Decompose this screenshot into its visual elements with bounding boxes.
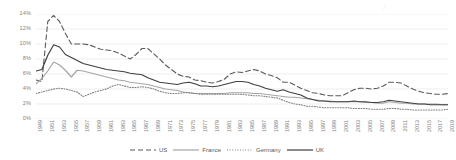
- x-tick-label: 1987: [262, 120, 267, 132]
- x-tick-label: 2003: [356, 120, 361, 132]
- x-tick-label: 1997: [321, 120, 326, 132]
- legend-item-france[interactable]: France: [173, 147, 221, 153]
- x-tick-label: 1995: [309, 120, 314, 132]
- y-tick-label: 0%: [23, 116, 31, 122]
- x-tick-label: 1949: [38, 120, 43, 132]
- y-tick-label: 14%: [20, 11, 32, 17]
- legend-swatch-germany-icon: [227, 147, 253, 153]
- x-tick-label: 1961: [109, 120, 114, 132]
- x-tick-label: 1969: [156, 120, 161, 132]
- x-tick-label: 1991: [285, 120, 290, 132]
- plot-area: [36, 14, 448, 119]
- legend-swatch-uk-icon: [287, 147, 313, 153]
- x-tick-label: 1953: [62, 120, 67, 132]
- legend-swatch-us-icon: [130, 147, 156, 153]
- watermark: ?: [382, 3, 386, 13]
- legend-label: Germany: [256, 147, 281, 153]
- series-line-germany: [36, 85, 448, 111]
- x-tick-label: 1999: [332, 120, 337, 132]
- x-tick-label: 1963: [121, 120, 126, 132]
- x-tick-label: 1951: [50, 120, 55, 132]
- chart-legend: USFranceGermanyUK: [0, 143, 454, 157]
- x-tick-label: 2009: [391, 120, 396, 132]
- x-tick-label: 2001: [344, 120, 349, 132]
- legend-item-us[interactable]: US: [130, 147, 167, 153]
- legend-swatch-france-icon: [173, 147, 199, 153]
- y-tick-label: 2%: [23, 101, 31, 107]
- series-lines: [36, 14, 448, 119]
- x-tick-label: 1979: [215, 120, 220, 132]
- x-tick-label: 1981: [227, 120, 232, 132]
- legend-item-germany[interactable]: Germany: [227, 147, 281, 153]
- x-tick-label: 2013: [415, 120, 420, 132]
- x-tick-label: 1983: [238, 120, 243, 132]
- x-tick-label: 1993: [297, 120, 302, 132]
- y-tick-label: 8%: [23, 56, 31, 62]
- series-line-us: [36, 16, 448, 96]
- x-tick-label: 2017: [438, 120, 443, 132]
- x-tick-label: 1959: [97, 120, 102, 132]
- x-tick-label: 2015: [427, 120, 432, 132]
- x-tick-label: 1975: [191, 120, 196, 132]
- x-tick-label: 1971: [168, 120, 173, 132]
- legend-label: France: [202, 147, 221, 153]
- x-tick-label: 1957: [85, 120, 90, 132]
- y-axis: 0%2%4%6%8%10%12%14%: [0, 14, 34, 119]
- x-tick-label: 1965: [132, 120, 137, 132]
- x-tick-label: 1989: [274, 120, 279, 132]
- x-tick-label: 2005: [368, 120, 373, 132]
- x-tick-label: 1967: [144, 120, 149, 132]
- y-tick-label: 10%: [20, 41, 32, 47]
- y-tick-label: 12%: [20, 26, 32, 32]
- y-tick-label: 4%: [23, 86, 31, 92]
- x-tick-label: 1985: [250, 120, 255, 132]
- series-line-france: [36, 62, 448, 105]
- x-tick-label: 2019: [450, 120, 455, 132]
- y-tick-label: 6%: [23, 71, 31, 77]
- legend-item-uk[interactable]: UK: [287, 147, 324, 153]
- legend-label: UK: [316, 147, 324, 153]
- x-tick-label: 1977: [203, 120, 208, 132]
- legend-label: US: [159, 147, 167, 153]
- x-tick-label: 1973: [179, 120, 184, 132]
- x-tick-label: 2011: [403, 120, 408, 132]
- x-tick-label: 1955: [74, 120, 79, 132]
- x-axis: 1949195119531955195719591961196319651967…: [36, 120, 448, 142]
- x-tick-label: 2007: [380, 120, 385, 132]
